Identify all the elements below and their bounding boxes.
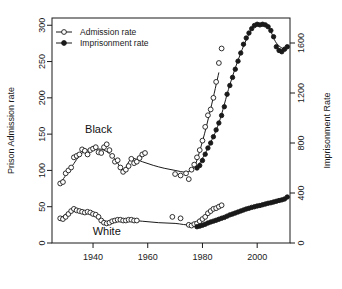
data-point (85, 152, 90, 157)
data-point (195, 155, 200, 160)
data-point (178, 216, 183, 221)
data-point (61, 180, 66, 185)
data-point (186, 177, 191, 182)
data-point (198, 163, 202, 167)
data-point (225, 92, 229, 96)
data-point (77, 152, 82, 157)
data-point (214, 128, 218, 132)
data-point (197, 148, 202, 153)
data-point (200, 138, 205, 143)
data-point (129, 156, 134, 161)
data-point (143, 151, 148, 156)
data-point (206, 113, 211, 118)
x-tick-label: 1940 (83, 252, 103, 262)
data-point (269, 28, 273, 32)
y-tick-label: 50 (37, 202, 47, 212)
data-point (206, 146, 210, 150)
data-point (233, 67, 237, 71)
y2-tick-label: 0 (296, 240, 306, 245)
data-point (99, 151, 104, 156)
annotation-white: White (93, 225, 121, 237)
data-point (217, 121, 221, 125)
y-tick-label: 250 (37, 54, 47, 69)
data-point (216, 61, 221, 66)
data-point (230, 75, 234, 79)
data-point (69, 165, 74, 170)
data-point (247, 31, 251, 35)
y-tick-label: 150 (37, 127, 47, 142)
data-point (173, 172, 178, 177)
chart-svg: 1940196019802000050100150200250300040080… (0, 0, 342, 289)
legend-marker-open-circle (62, 30, 67, 35)
y-axis-title: Prison Admission rate (6, 87, 16, 174)
data-point (271, 35, 275, 39)
x-tick-label: 2000 (247, 252, 267, 262)
data-point (93, 145, 98, 150)
data-point (178, 173, 183, 178)
data-point (203, 152, 207, 156)
data-point (208, 141, 212, 145)
annotation-black: Black (85, 123, 112, 135)
data-point (285, 45, 289, 49)
y2-tick-label: 1200 (296, 83, 306, 103)
y-tick-label: 0 (37, 240, 47, 245)
data-point (219, 203, 224, 208)
data-point (285, 195, 289, 199)
y-tick-label: 200 (37, 90, 47, 105)
data-point (200, 158, 204, 162)
data-point (241, 42, 245, 46)
data-point (219, 46, 224, 51)
data-point (244, 36, 248, 40)
data-point (115, 158, 120, 163)
data-point (239, 51, 243, 55)
legend-label: Imprisonment rate (80, 38, 149, 48)
y2-tick-label: 400 (296, 185, 306, 200)
y2-axis-title: Imprisonment Rate (322, 92, 332, 168)
data-point (184, 171, 189, 176)
y2-tick-label: 1600 (296, 33, 306, 53)
data-point (228, 83, 232, 87)
data-point (126, 164, 131, 169)
y2-tick-label: 800 (296, 135, 306, 150)
y-tick-label: 300 (37, 18, 47, 33)
data-point (118, 165, 123, 170)
trend-line (197, 24, 285, 168)
data-point (170, 214, 175, 219)
data-point (110, 154, 115, 159)
legend-label: Admission rate (80, 27, 136, 37)
data-point (134, 218, 139, 223)
chart-figure: 1940196019802000050100150200250300040080… (0, 0, 342, 289)
series-black-imprisonment-rate (195, 22, 290, 170)
data-point (211, 95, 216, 100)
data-point (107, 148, 112, 153)
data-point (236, 59, 240, 63)
x-tick-label: 1980 (192, 252, 212, 262)
data-point (104, 142, 109, 147)
data-point (208, 107, 213, 112)
data-point (219, 113, 223, 117)
data-point (203, 124, 208, 129)
data-point (211, 135, 215, 139)
legend-marker-filled-circle (62, 41, 67, 46)
data-point (222, 105, 226, 109)
x-tick-label: 1960 (138, 252, 158, 262)
data-point (189, 167, 194, 172)
y-tick-label: 100 (37, 163, 47, 178)
data-point (214, 79, 219, 84)
